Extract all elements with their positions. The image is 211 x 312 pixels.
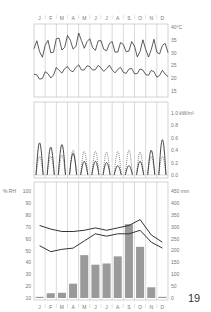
rainfall-bar [91,265,99,298]
rh-axis-label: % RH [3,188,16,194]
month-label: O [138,15,142,21]
rainfall-bar [114,256,122,298]
rain-axis-tick: 50 [171,283,177,289]
humidity-rainfall-panel: % RH100908070605040302010450 mm400350300… [3,182,189,301]
diffuse-radiation-curve [137,152,144,175]
solar-axis-tick: 0.6 [171,135,178,141]
direct-radiation-curve [148,150,155,175]
month-label: A [71,15,75,21]
month-label: N [149,15,153,21]
month-label: M [60,304,64,310]
month-label: S [127,15,131,21]
rh-axis-tick: 50 [25,248,31,254]
rh-axis-tick: 60 [25,236,31,242]
month-label: O [138,304,142,310]
rh-axis-tick: 40 [25,259,31,265]
month-label: J [105,304,108,310]
temp-axis-tick: 40°C [171,24,183,30]
month-label: D [161,304,165,310]
rainfall-bar [69,284,77,298]
temp-axis-tick: 30 [171,50,177,56]
month-label: J [38,304,41,310]
direct-radiation-curve [137,161,144,175]
direct-radiation-curve [125,166,132,175]
rh-axis-tick: 90 [25,200,31,206]
month-label: J [94,15,97,21]
rainfall-bar [158,297,166,298]
direct-radiation-curve [36,143,43,175]
solar-axis-tick: 0.0 [171,172,178,178]
temp-axis-tick: 25 [171,62,177,68]
page-number: 19 [188,292,200,304]
rh-axis-tick: 100 [23,188,32,194]
rh-axis-tick: 20 [25,283,31,289]
climate-chart: JFMAMJJASOND 40°C3530252015 1.0 kW/m²0.8… [0,0,211,312]
temp-axis-tick: 15 [171,88,177,94]
rain-axis-tick: 450 mm [171,188,189,194]
rainfall-bar [103,263,111,298]
rh-axis-tick: 80 [25,212,31,218]
solar-radiation-panel: 1.0 kW/m²0.80.60.40.20.0 [34,102,194,178]
rainfall-bar [80,255,88,298]
month-label: M [60,15,64,21]
direct-radiation-curve [58,145,65,175]
month-label: S [127,304,131,310]
solar-axis-tick: 0.2 [171,160,178,166]
rain-axis-tick: 0 [171,295,174,301]
rh-axis-tick: 30 [25,271,31,277]
month-label: F [49,15,52,21]
rainfall-bar [36,297,44,298]
temp-axis-tick: 20 [171,75,177,81]
direct-radiation-curve [159,140,166,175]
solar-axis-tick: 0.8 [171,122,178,128]
month-label: F [49,304,52,310]
month-label: J [94,304,97,310]
rain-axis-tick: 400 [171,200,180,206]
month-label: D [161,15,165,21]
month-label: M [82,15,86,21]
rh-axis-tick: 10 [25,295,31,301]
month-label: M [82,304,86,310]
diffuse-radiation-curve [81,151,88,175]
direct-radiation-curve [47,147,54,175]
month-label: J [38,15,41,21]
rainfall-bar [147,287,155,298]
rainfall-bar [47,293,55,298]
solar-axis-tick: 1.0 kW/m² [171,110,194,116]
temp-axis-tick: 35 [171,37,177,43]
rain-axis-tick: 350 [171,212,180,218]
rain-axis-tick: 100 [171,271,180,277]
rain-axis-tick: 150 [171,259,180,265]
rainfall-bar [136,247,144,298]
month-label: A [116,304,120,310]
rain-axis-tick: 200 [171,247,180,253]
temperature-panel: 40°C3530252015 [34,24,183,97]
rainfall-bar [125,224,133,298]
rh-axis-tick: 70 [25,224,31,230]
month-label: A [71,304,75,310]
rain-axis-tick: 250 [171,236,180,242]
month-label: A [116,15,120,21]
month-label: N [149,304,153,310]
month-labels-top: JFMAMJJASOND [38,15,164,21]
month-labels-bottom: JFMAMJJASOND [38,304,164,310]
solar-axis-tick: 0.4 [171,147,178,153]
rain-axis-tick: 300 [171,224,180,230]
rainfall-bar [58,293,66,298]
month-label: J [105,15,108,21]
